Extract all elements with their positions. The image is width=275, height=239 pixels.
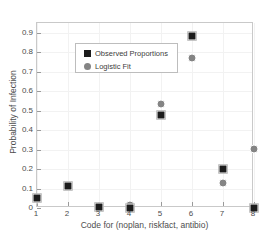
data-point-square: [219, 165, 228, 174]
data-point-circle: [219, 178, 228, 187]
y-tick-label: 0.1: [22, 183, 33, 192]
gridline-horizontal: [37, 130, 252, 131]
data-point-circle: [188, 54, 197, 63]
y-tick-mark: [37, 111, 41, 112]
y-tick-label: 0.2: [22, 164, 33, 173]
y-tick-label: 0.8: [22, 47, 33, 56]
gridline-horizontal: [37, 33, 252, 34]
gridline-horizontal: [37, 91, 252, 92]
legend-entry-fit: Logistic Fit: [79, 60, 174, 72]
x-tick-label: 2: [65, 209, 69, 218]
y-tick-mark: [37, 189, 41, 190]
y-tick-mark: [37, 33, 41, 34]
y-tick-label: 0.3: [22, 144, 33, 153]
x-tick-mark: [161, 202, 162, 206]
x-tick-label: 8: [251, 209, 255, 218]
data-point-square: [33, 194, 42, 203]
square-marker-icon: [79, 50, 95, 57]
circle-marker-icon: [79, 63, 95, 70]
y-tick-label: 0.9: [22, 27, 33, 36]
plot-area: Observed Proportions Logistic Fit: [36, 22, 253, 207]
chart-legend: Observed Proportions Logistic Fit: [75, 43, 178, 73]
y-tick-mark: [37, 130, 41, 131]
gridline-vertical: [192, 23, 193, 206]
gridline-vertical: [254, 23, 255, 206]
gridline-horizontal: [37, 111, 252, 112]
y-tick-mark: [37, 72, 41, 73]
y-tick-label: 0: [29, 203, 33, 212]
y-tick-label: 0.7: [22, 66, 33, 75]
y-tick-mark: [37, 150, 41, 151]
legend-label-fit: Logistic Fit: [95, 62, 131, 71]
y-axis-label: Probability of Infection: [8, 52, 18, 172]
x-tick-mark: [192, 202, 193, 206]
legend-label-observed: Observed Proportions: [95, 49, 168, 58]
x-tick-label: 7: [220, 209, 224, 218]
x-tick-label: 6: [189, 209, 193, 218]
gridline-vertical: [68, 23, 69, 206]
data-point-circle: [250, 144, 259, 153]
gridline-vertical: [37, 23, 38, 206]
x-tick-label: 5: [158, 209, 162, 218]
legend-entry-observed: Observed Proportions: [79, 47, 174, 59]
x-tick-label: 3: [96, 209, 100, 218]
x-tick-mark: [68, 202, 69, 206]
gridline-horizontal: [37, 150, 252, 151]
y-tick-mark: [37, 169, 41, 170]
x-tick-mark: [223, 202, 224, 206]
x-tick-label: 4: [127, 209, 131, 218]
data-point-square: [157, 110, 166, 119]
data-point-circle: [157, 99, 166, 108]
y-tick-label: 0.5: [22, 105, 33, 114]
x-tick-label: 1: [34, 209, 38, 218]
y-tick-mark: [37, 91, 41, 92]
y-tick-label: 0.6: [22, 86, 33, 95]
data-point-square: [188, 31, 197, 40]
chart-figure: 00.10.20.30.40.50.60.70.80.9 Observed Pr…: [0, 0, 275, 239]
y-tick-label: 0.4: [22, 125, 33, 134]
x-axis-label: Code for (noplan, riskfact, antibio): [36, 220, 253, 230]
data-point-square: [64, 181, 73, 190]
y-tick-mark: [37, 52, 41, 53]
